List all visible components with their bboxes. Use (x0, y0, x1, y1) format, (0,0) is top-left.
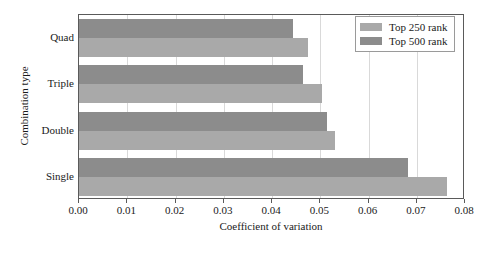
x-axis-tick-label: 0.02 (150, 204, 200, 217)
bar-triple-top-500-rank (79, 65, 303, 84)
y-axis-tick-single: Single (16, 170, 74, 182)
x-axis-tick-label: 0.06 (343, 204, 393, 217)
y-axis-tick-double: Double (16, 124, 74, 136)
x-axis-tick-mark (368, 199, 369, 203)
y-axis-tick-quad: Quad (16, 31, 74, 43)
x-axis-tick-mark (319, 199, 320, 203)
x-axis-title: Coefficient of variation (78, 219, 464, 233)
bar-chart-figure: Combination type QuadTripleDoubleSingle … (0, 0, 491, 253)
x-axis-tick-label: 0.05 (294, 204, 344, 217)
bar-double-top-500-rank (79, 112, 327, 131)
legend-item: Top 250 rank (360, 20, 448, 34)
x-axis-tick-label: 0.00 (53, 204, 103, 217)
x-axis-tick-mark (271, 199, 272, 203)
y-axis-tick-triple: Triple (16, 77, 74, 89)
bar-triple-top-250-rank (79, 84, 322, 103)
x-axis-tick-mark (464, 199, 465, 203)
legend-swatch-icon (360, 23, 382, 31)
bar-single-top-250-rank (79, 177, 447, 196)
chart-legend: Top 250 rankTop 500 rank (355, 16, 455, 52)
x-axis-tick-labels: 0.000.010.020.030.040.050.060.070.08 (78, 199, 464, 219)
x-axis-tick-mark (78, 199, 79, 203)
bar-quad-top-500-rank (79, 19, 293, 38)
x-axis-tick-label: 0.01 (101, 204, 151, 217)
bar-quad-top-250-rank (79, 38, 308, 57)
legend-item: Top 500 rank (360, 34, 448, 48)
legend-swatch-icon (360, 37, 382, 45)
x-axis-tick-mark (175, 199, 176, 203)
x-axis-tick-label: 0.08 (439, 204, 489, 217)
bar-single-top-500-rank (79, 158, 408, 177)
x-axis-tick-mark (416, 199, 417, 203)
legend-label: Top 250 rank (389, 20, 448, 34)
x-axis-tick-mark (223, 199, 224, 203)
legend-label: Top 500 rank (389, 34, 448, 48)
x-axis-tick-mark (126, 199, 127, 203)
bar-double-top-250-rank (79, 131, 335, 150)
x-axis-tick-label: 0.04 (246, 204, 296, 217)
x-axis-tick-label: 0.07 (391, 204, 441, 217)
x-axis-tick-label: 0.03 (198, 204, 248, 217)
